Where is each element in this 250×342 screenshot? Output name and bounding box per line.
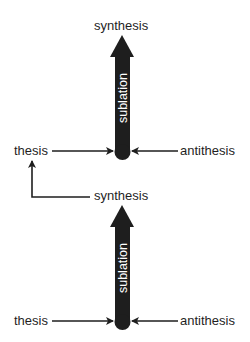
lower-synthesis-label: synthesis [94, 189, 148, 203]
connector-arrow [32, 161, 90, 197]
upper-sublation-label: sublation [116, 58, 130, 138]
upper-synthesis-label: synthesis [94, 19, 148, 33]
lower-antithesis-label: antithesis [180, 314, 235, 328]
lower-thesis-label: thesis [14, 314, 48, 328]
upper-antithesis-label: antithesis [180, 144, 235, 158]
upper-thesis-label: thesis [14, 144, 48, 158]
lower-sublation-label: sublation [116, 228, 130, 308]
